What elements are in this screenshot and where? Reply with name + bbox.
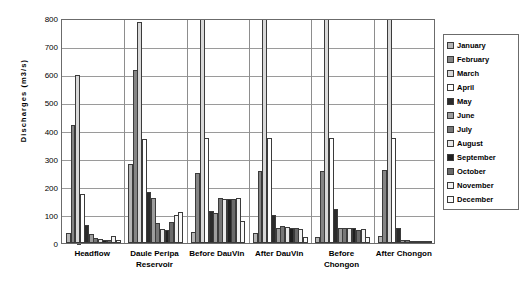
y-axis-tick-labels: 0100200300400500600700800 bbox=[20, 19, 58, 244]
bars bbox=[187, 20, 249, 243]
x-tick-label: Before Chongon bbox=[310, 248, 372, 270]
legend-item[interactable]: July bbox=[447, 122, 516, 136]
x-tick-label: After Chongon bbox=[373, 248, 435, 259]
legend-swatch-icon bbox=[447, 126, 454, 133]
x-tick-label: After DauVin bbox=[248, 248, 310, 259]
bars bbox=[374, 20, 435, 243]
legend-item[interactable]: March bbox=[447, 66, 516, 80]
legend-item-label: November bbox=[457, 181, 494, 190]
bar-chart: Discharges (m3/s) 0100200300400500600700… bbox=[0, 0, 527, 301]
x-tick-label-line: Before DauVin bbox=[186, 248, 248, 259]
legend-item-label: May bbox=[457, 97, 472, 106]
legend-swatch-icon bbox=[447, 98, 454, 105]
legend-item-label: August bbox=[457, 139, 483, 148]
legend-item[interactable]: January bbox=[447, 38, 516, 52]
legend-swatch-icon bbox=[447, 140, 454, 147]
y-tick-label: 400 bbox=[45, 127, 58, 136]
y-tick-label: 500 bbox=[45, 99, 58, 108]
legend-item-label: June bbox=[457, 111, 475, 120]
legend-item[interactable]: May bbox=[447, 94, 516, 108]
x-tick-label-line: Reservoir bbox=[123, 259, 185, 270]
y-tick-label: 600 bbox=[45, 71, 58, 80]
y-tick-label: 800 bbox=[45, 15, 58, 24]
legend-swatch-icon bbox=[447, 42, 454, 49]
legend-swatch-icon bbox=[447, 168, 454, 175]
bar bbox=[178, 212, 183, 243]
x-tick-label: Headflow bbox=[61, 248, 123, 259]
x-tick-label-line: After Chongon bbox=[373, 248, 435, 259]
legend-item-label: September bbox=[457, 153, 496, 162]
legend-item-label: April bbox=[457, 83, 474, 92]
bars bbox=[249, 20, 311, 243]
legend-swatch-icon bbox=[447, 182, 454, 189]
legend-item[interactable]: February bbox=[447, 52, 516, 66]
bar-group bbox=[62, 20, 124, 243]
bar-group bbox=[187, 20, 249, 243]
bar bbox=[303, 237, 308, 243]
y-tick-label: 700 bbox=[45, 43, 58, 52]
legend-item-label: February bbox=[457, 55, 489, 64]
bar-group bbox=[124, 20, 186, 243]
bars bbox=[311, 20, 373, 243]
legend-item-label: October bbox=[457, 167, 486, 176]
legend-item-label: December bbox=[457, 195, 493, 204]
y-tick-label: 200 bbox=[45, 183, 58, 192]
plot-area bbox=[61, 19, 435, 244]
y-tick-mark bbox=[77, 244, 81, 245]
bars bbox=[62, 20, 124, 243]
legend-swatch-icon bbox=[447, 112, 454, 119]
bar bbox=[427, 241, 432, 243]
y-tick-label: 300 bbox=[45, 155, 58, 164]
bars bbox=[124, 20, 186, 243]
x-axis-tick-labels: HeadflowDaule PeripaReservoirBefore DauV… bbox=[61, 248, 435, 288]
legend-swatch-icon bbox=[447, 70, 454, 77]
x-tick-label-line: Headflow bbox=[61, 248, 123, 259]
legend-item[interactable]: April bbox=[447, 80, 516, 94]
legend-swatch-icon bbox=[447, 154, 454, 161]
legend-item[interactable]: June bbox=[447, 108, 516, 122]
legend-item[interactable]: November bbox=[447, 178, 516, 192]
legend-item[interactable]: September bbox=[447, 150, 516, 164]
legend-item-label: July bbox=[457, 125, 472, 134]
x-tick-label: Before DauVin bbox=[186, 248, 248, 259]
legend-item[interactable]: August bbox=[447, 136, 516, 150]
bar-group bbox=[311, 20, 373, 243]
legend-item[interactable]: December bbox=[447, 192, 516, 206]
chart-legend: JanuaryFebruaryMarchAprilMayJuneJulyAugu… bbox=[443, 34, 519, 210]
legend-swatch-icon bbox=[447, 56, 454, 63]
bar bbox=[240, 221, 245, 244]
bar-group bbox=[249, 20, 311, 243]
y-tick-label: 0 bbox=[54, 240, 58, 249]
x-tick-label-line: Before Chongon bbox=[310, 248, 372, 270]
legend-swatch-icon bbox=[447, 84, 454, 91]
legend-item-label: March bbox=[457, 69, 479, 78]
bar-group bbox=[374, 20, 435, 243]
x-tick-label-line: After DauVin bbox=[248, 248, 310, 259]
y-tick-label: 100 bbox=[45, 211, 58, 220]
legend-item-label: January bbox=[457, 41, 486, 50]
x-tick-label-line: Daule Peripa bbox=[123, 248, 185, 259]
legend-item[interactable]: October bbox=[447, 164, 516, 178]
bar bbox=[116, 240, 121, 243]
bar bbox=[365, 237, 370, 243]
legend-swatch-icon bbox=[447, 196, 454, 203]
x-tick-label: Daule PeripaReservoir bbox=[123, 248, 185, 270]
